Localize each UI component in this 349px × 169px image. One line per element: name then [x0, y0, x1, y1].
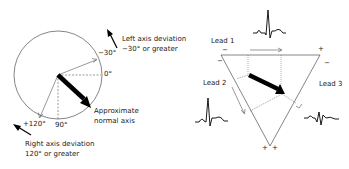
einthoven-triangle	[195, 10, 339, 146]
left-deviation-arrow	[110, 34, 117, 48]
left-deviation-label-1: Left axis deviation	[122, 35, 186, 44]
right-deviation-label-2: 120° or greater	[25, 150, 79, 159]
ninety-degree-label: 90°	[55, 121, 67, 130]
right-deviation-label-1: Right axis deviation	[25, 140, 94, 149]
minus30-label: −30°	[98, 49, 116, 58]
top-right-plus-sign: +	[318, 45, 324, 54]
top-right-minus-sign: −	[324, 59, 330, 68]
plus120-label: +120°	[23, 120, 46, 129]
right-deviation-arrowhead	[13, 124, 21, 131]
bottom-plus-sign-right: +	[272, 144, 278, 153]
lead1-ecg-trace	[253, 10, 286, 38]
triangle-axis-arrow	[249, 75, 278, 89]
bottom-plus-sign-left: +	[262, 144, 268, 153]
left-deviation-arrowhead	[107, 29, 113, 37]
triangle-outline	[221, 55, 320, 146]
lead3-label: Lead 3	[319, 80, 343, 89]
normal-axis-label-1: Approximate	[94, 107, 139, 116]
top-left-minus-sign: −	[222, 46, 228, 55]
left-deviation-label-2: −30° or greater	[122, 45, 178, 54]
lead2-label: Lead 2	[203, 79, 227, 88]
plus120-line	[40, 75, 58, 117]
lead2-arrow	[232, 87, 244, 113]
lead3-arrow	[296, 104, 302, 108]
normal-axis-arrow	[58, 75, 84, 99]
minus30-line	[58, 60, 96, 75]
lead3-ecg-trace	[304, 112, 339, 125]
lead2-ecg-trace	[195, 98, 228, 126]
top-left-minus-sign-2: −	[217, 57, 223, 66]
zero-degree-label: 0°	[104, 70, 112, 79]
lead1-label: Lead 1	[211, 37, 235, 46]
normal-axis-label-2: normal axis	[94, 117, 135, 126]
